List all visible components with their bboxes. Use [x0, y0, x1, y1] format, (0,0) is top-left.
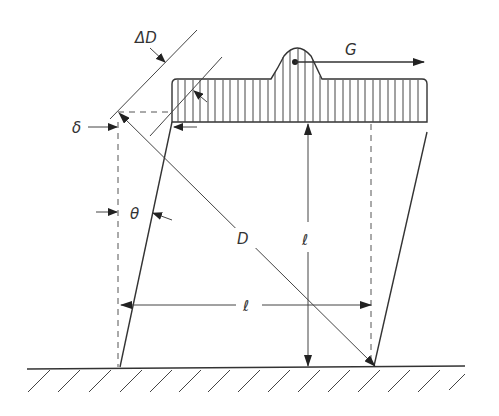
diagonal-d: D — [119, 113, 375, 366]
label-ell-horizontal: ℓ — [242, 297, 249, 315]
sheared-body — [120, 122, 427, 367]
label-delta: δ — [72, 119, 81, 137]
label-delta-d: ΔD — [134, 29, 157, 47]
label-g: G — [345, 41, 357, 59]
shear-diagram: G D ΔD δ θ ℓ ℓ — [0, 0, 499, 416]
shear-plate — [172, 48, 427, 122]
elongation-delta-d: ΔD — [110, 29, 222, 136]
ground — [27, 366, 465, 392]
angle-theta: θ — [96, 205, 172, 223]
dimension-ell-horizontal: ℓ — [121, 297, 371, 315]
dimension-ell-vertical: ℓ — [301, 124, 308, 366]
label-d: D — [237, 230, 249, 248]
label-ell-vertical: ℓ — [301, 231, 308, 249]
force-arrow-g: G — [292, 41, 424, 65]
label-theta: θ — [130, 205, 139, 223]
